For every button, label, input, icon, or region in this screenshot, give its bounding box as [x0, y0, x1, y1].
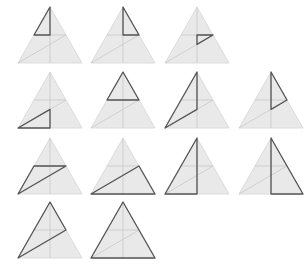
triangle-panel-9: [91, 138, 155, 194]
triangle-panel-12: [18, 202, 82, 258]
triangle-panel-10: [165, 138, 229, 194]
triangle-panel-2: [91, 7, 155, 63]
triangle-panel-5: [91, 72, 155, 128]
triangle-panel-1: [18, 7, 82, 63]
triangle-grid-figure: [0, 0, 308, 270]
triangle-panel-11: [239, 138, 303, 194]
triangle-panel-6: [165, 72, 229, 128]
triangle-panel-4: [18, 72, 82, 128]
triangle-panel-7: [239, 72, 303, 128]
triangle-panel-3: [165, 7, 229, 63]
triangle-panel-8: [18, 138, 82, 194]
triangle-panel-13: [91, 202, 155, 258]
